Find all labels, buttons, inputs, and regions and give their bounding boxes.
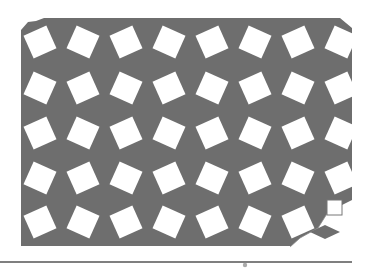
tiling-figure (0, 0, 370, 268)
tiling-region (21, 18, 358, 248)
legend-square-tile (327, 200, 342, 215)
scan-mark (243, 263, 247, 267)
